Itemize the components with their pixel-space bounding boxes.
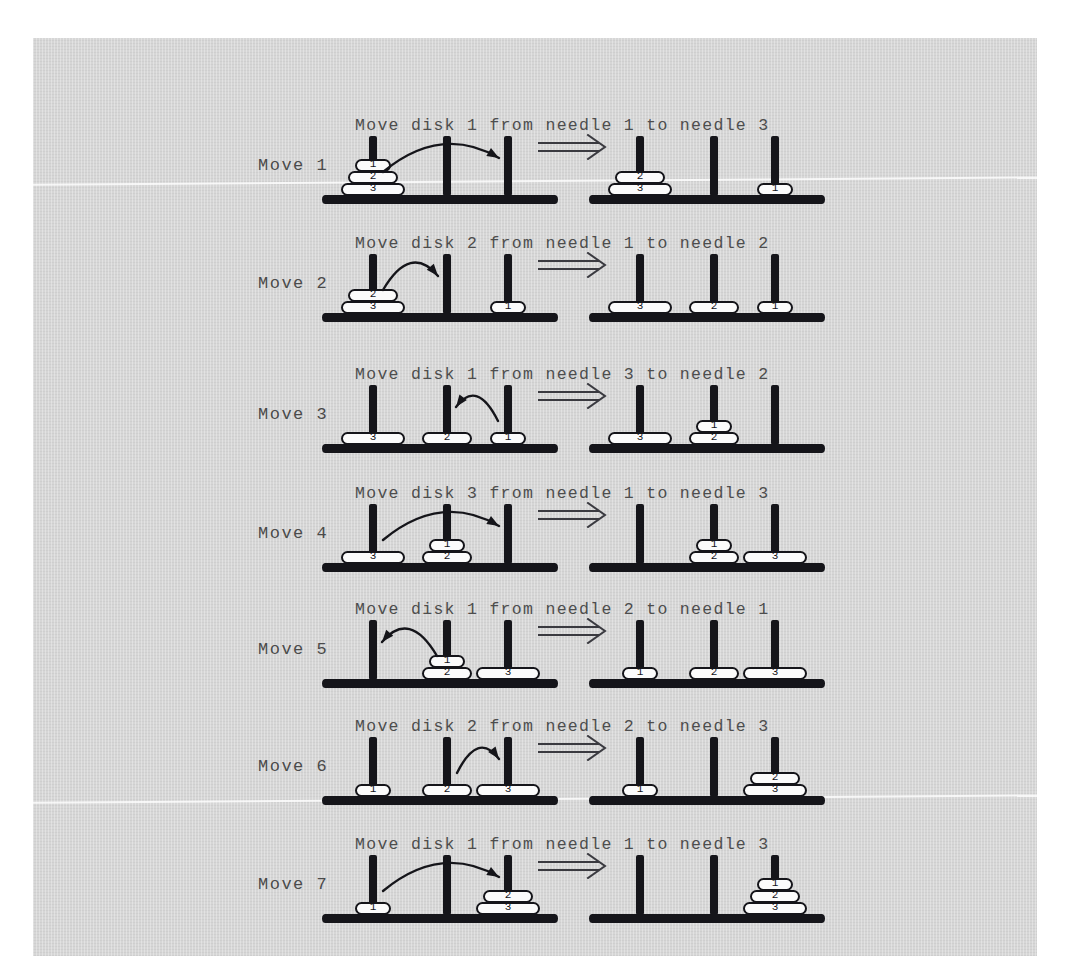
disk-label: 3 xyxy=(637,300,644,312)
disk-label: 1 xyxy=(637,666,644,678)
move-row: Move disk 2 from needle 1 to needle 2Mov… xyxy=(33,204,1037,322)
move-row: Move disk 1 from needle 3 to needle 2Mov… xyxy=(33,335,1037,453)
disk-1[interactable]: 1 xyxy=(490,301,526,314)
disk-3[interactable]: 3 xyxy=(341,551,405,564)
disk-3[interactable]: 3 xyxy=(476,902,540,915)
disk-label: 3 xyxy=(637,431,644,443)
board-after: 123 xyxy=(589,727,829,805)
disk-2[interactable]: 2 xyxy=(422,667,472,680)
move-number-label: Move 4 xyxy=(258,524,328,543)
disk-1[interactable]: 1 xyxy=(757,301,793,314)
needle-2[interactable] xyxy=(443,136,451,196)
needle-2[interactable] xyxy=(710,136,718,196)
disk-label: 3 xyxy=(505,783,512,795)
disk-3[interactable]: 3 xyxy=(476,784,540,797)
disk-1[interactable]: 1 xyxy=(622,667,658,680)
needle-3[interactable] xyxy=(504,504,512,564)
disk-3[interactable]: 3 xyxy=(743,902,807,915)
board-base xyxy=(589,195,825,204)
move-number-label: Move 5 xyxy=(258,640,328,659)
move-number-label: Move 7 xyxy=(258,875,328,894)
board-after: 123 xyxy=(589,610,829,688)
needle-2[interactable] xyxy=(443,855,451,915)
disk-1[interactable]: 1 xyxy=(355,784,391,797)
move-number-label: Move 6 xyxy=(258,757,328,776)
disk-3[interactable]: 3 xyxy=(341,301,405,314)
board-base xyxy=(322,914,558,923)
needle-1[interactable] xyxy=(369,620,377,680)
disk-2[interactable]: 2 xyxy=(422,784,472,797)
disk-3[interactable]: 3 xyxy=(743,551,807,564)
disk-label: 3 xyxy=(637,182,644,194)
board-base xyxy=(589,444,825,453)
disk-label: 2 xyxy=(772,771,779,783)
board-after: 312 xyxy=(589,375,829,453)
disk-3[interactable]: 3 xyxy=(608,183,672,196)
needle-2[interactable] xyxy=(443,254,451,314)
board-before: 123 xyxy=(322,727,562,805)
disk-2[interactable]: 2 xyxy=(422,432,472,445)
move-row: Move disk 1 from needle 1 to needle 3Mov… xyxy=(33,805,1037,923)
disk-label: 1 xyxy=(772,182,779,194)
disk-label: 2 xyxy=(711,431,718,443)
disk-3[interactable]: 3 xyxy=(743,784,807,797)
disk-1[interactable]: 1 xyxy=(757,183,793,196)
needle-2[interactable] xyxy=(710,737,718,797)
disk-1[interactable]: 1 xyxy=(622,784,658,797)
disk-label: 2 xyxy=(505,889,512,901)
disk-label: 3 xyxy=(370,431,377,443)
disk-1[interactable]: 1 xyxy=(490,432,526,445)
disk-3[interactable]: 3 xyxy=(608,301,672,314)
board-base xyxy=(322,796,558,805)
disk-3[interactable]: 3 xyxy=(608,432,672,445)
needle-3[interactable] xyxy=(771,385,779,445)
disk-label: 1 xyxy=(772,877,779,889)
disk-label: 1 xyxy=(772,300,779,312)
disk-label: 3 xyxy=(370,182,377,194)
disk-3[interactable]: 3 xyxy=(743,667,807,680)
disk-label: 2 xyxy=(772,889,779,901)
disk-label: 2 xyxy=(370,288,377,300)
disk-label: 2 xyxy=(637,170,644,182)
disk-label: 3 xyxy=(370,300,377,312)
disk-label: 1 xyxy=(444,654,451,666)
needle-2[interactable] xyxy=(710,855,718,915)
board-before: 123 xyxy=(322,126,562,204)
disk-label: 3 xyxy=(772,783,779,795)
board-base xyxy=(589,313,825,322)
disk-label: 3 xyxy=(505,666,512,678)
move-row: Move disk 1 from needle 2 to needle 1Mov… xyxy=(33,570,1037,688)
disk-label: 2 xyxy=(444,783,451,795)
needle-1[interactable] xyxy=(636,855,644,915)
disk-1[interactable]: 1 xyxy=(355,902,391,915)
disk-2[interactable]: 2 xyxy=(689,301,739,314)
needle-3[interactable] xyxy=(504,136,512,196)
scanned-page: Move disk 1 from needle 1 to needle 3Mov… xyxy=(33,38,1037,956)
disk-2[interactable]: 2 xyxy=(689,432,739,445)
move-number-label: Move 1 xyxy=(258,156,328,175)
disk-3[interactable]: 3 xyxy=(341,183,405,196)
move-row: Move disk 1 from needle 1 to needle 3Mov… xyxy=(33,86,1037,204)
disk-label: 1 xyxy=(505,431,512,443)
move-row: Move disk 3 from needle 1 to needle 3Mov… xyxy=(33,454,1037,572)
board-base xyxy=(322,444,558,453)
disk-2[interactable]: 2 xyxy=(422,551,472,564)
board-after: 231 xyxy=(589,126,829,204)
board-before: 123 xyxy=(322,610,562,688)
disk-3[interactable]: 3 xyxy=(341,432,405,445)
board-base xyxy=(322,195,558,204)
board-before: 123 xyxy=(322,845,562,923)
disk-2[interactable]: 2 xyxy=(689,551,739,564)
disk-label: 2 xyxy=(711,300,718,312)
disk-label: 3 xyxy=(772,901,779,913)
board-after: 123 xyxy=(589,845,829,923)
board-base xyxy=(589,796,825,805)
disk-3[interactable]: 3 xyxy=(476,667,540,680)
board-base xyxy=(322,313,558,322)
disk-2[interactable]: 2 xyxy=(689,667,739,680)
board-base xyxy=(589,914,825,923)
disk-label: 2 xyxy=(711,666,718,678)
disk-label: 2 xyxy=(444,666,451,678)
move-row: Move disk 2 from needle 2 to needle 3Mov… xyxy=(33,687,1037,805)
needle-1[interactable] xyxy=(636,504,644,564)
